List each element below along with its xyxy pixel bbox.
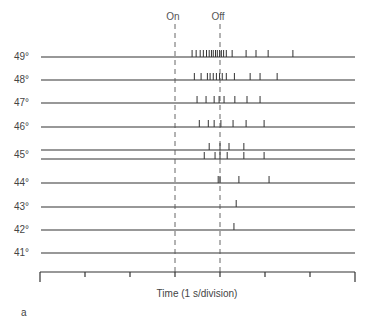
row-label-46: 46°	[14, 122, 38, 132]
row-label-48: 48°	[14, 75, 38, 85]
row-label-43: 43°	[14, 202, 38, 212]
panel-label: a	[21, 308, 27, 318]
row-label-45: 45°	[14, 150, 38, 160]
row-label-44: 44°	[14, 178, 38, 188]
row-label-42: 42°	[14, 225, 38, 235]
raster-plot	[0, 0, 374, 319]
row-label-47: 47°	[14, 98, 38, 108]
row-label-41: 41°	[14, 248, 38, 258]
on-marker-label: On	[166, 12, 179, 22]
off-marker-label: Off	[211, 12, 224, 22]
row-label-49: 49°	[14, 52, 38, 62]
x-axis-label: Time (1 s/division)	[0, 289, 374, 299]
